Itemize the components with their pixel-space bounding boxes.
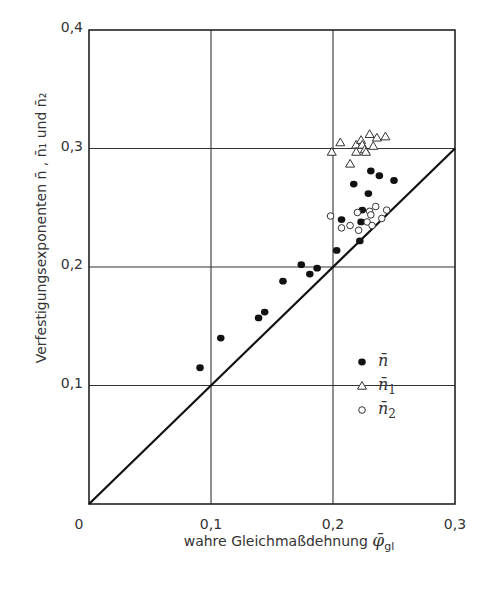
legend-item: n̄ — [358, 351, 388, 370]
data-point — [255, 315, 263, 322]
data-point — [379, 215, 386, 222]
data-point — [297, 261, 305, 268]
data-point — [369, 142, 378, 150]
data-point — [381, 132, 390, 140]
data-point — [367, 168, 375, 175]
x-tick-label: 0,2 — [322, 516, 344, 532]
series-filled-circle — [196, 168, 398, 372]
data-point — [354, 209, 361, 216]
data-point — [217, 335, 225, 342]
grid-lines — [89, 30, 455, 504]
y-tick-label: 0,3 — [61, 138, 83, 154]
legend-label: n̄ — [378, 351, 388, 370]
data-point — [336, 138, 345, 146]
x-axis-label: wahre Gleichmaßdehnung φ̄gl — [184, 530, 395, 553]
x-tick-label: 0 — [75, 516, 84, 532]
data-point — [338, 216, 346, 223]
data-point — [372, 203, 379, 210]
y-tick-label: 0,4 — [61, 19, 83, 35]
reference-line-identity — [89, 149, 455, 505]
data-point — [390, 177, 398, 184]
legend-label: n̄2 — [378, 399, 396, 421]
data-point — [279, 278, 287, 285]
x-tick-label: 0,3 — [444, 516, 466, 532]
x-tick-label: 0,1 — [200, 516, 222, 532]
data-points — [196, 130, 398, 371]
data-point — [350, 181, 358, 188]
data-point — [333, 247, 341, 254]
data-point — [327, 213, 334, 220]
y-axis-label: Verfestigungsexponenten n̄ , n̄₁ und n̄₂ — [33, 93, 49, 364]
legend-item: n̄2 — [359, 399, 396, 421]
y-axis-ticks: 0,10,20,30,4 — [61, 19, 83, 391]
x-axis-ticks: 00,10,20,3 — [75, 516, 467, 532]
series-open-circle — [327, 203, 390, 233]
data-point — [365, 130, 374, 138]
data-point — [338, 225, 345, 232]
data-point — [369, 222, 376, 229]
data-point — [306, 271, 314, 278]
legend-label: n̄1 — [378, 375, 396, 397]
data-point — [376, 172, 384, 179]
data-point — [383, 207, 390, 214]
x-axis-label-main: wahre Gleichmaßdehnung — [184, 533, 373, 549]
data-point — [261, 309, 269, 316]
data-point — [355, 227, 362, 234]
y-tick-label: 0,1 — [61, 375, 83, 391]
data-point — [313, 265, 321, 272]
data-point — [196, 364, 204, 371]
legend-marker-filled-circle — [358, 359, 366, 366]
legend-marker-open-circle — [359, 407, 366, 414]
data-point — [356, 238, 364, 245]
data-point — [346, 159, 355, 167]
data-point — [365, 190, 373, 197]
x-axis-label-symbol: φ̄ — [372, 530, 384, 550]
data-point — [368, 212, 375, 219]
y-tick-label: 0,2 — [61, 256, 83, 272]
data-point — [347, 222, 354, 229]
x-axis-label-subscript: gl — [384, 540, 394, 553]
scatter-chart: 00,10,20,3 0,10,20,30,4 wahre Gleichmaßd… — [0, 0, 485, 589]
